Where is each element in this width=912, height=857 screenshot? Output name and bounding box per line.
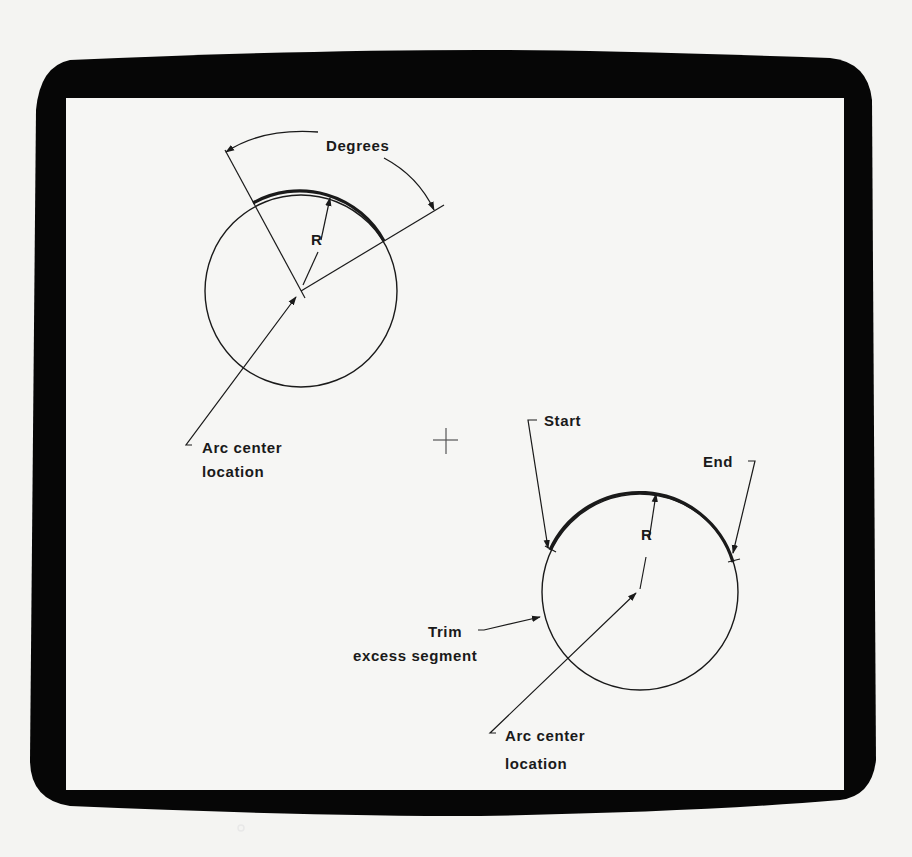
degrees-label: Degrees: [326, 138, 389, 153]
trim-label-line1: Trim: [428, 624, 462, 639]
crt-monitor-figure: Degrees R Arc center location Start End …: [0, 0, 912, 857]
power-led-icon: [238, 825, 244, 831]
center-label-bottom-line1: Arc center: [505, 728, 585, 743]
radius-label-top: R: [311, 232, 322, 247]
screen-area: [66, 98, 844, 790]
center-label-top-line1: Arc center: [202, 440, 282, 455]
trim-label-line2: excess segment: [353, 648, 477, 663]
radius-label-bottom: R: [641, 527, 652, 542]
center-label-bottom-line2: location: [505, 756, 567, 771]
start-label: Start: [544, 413, 581, 428]
end-label: End: [703, 454, 733, 469]
center-label-top-line2: location: [202, 464, 264, 479]
diagram-canvas: [0, 0, 912, 857]
